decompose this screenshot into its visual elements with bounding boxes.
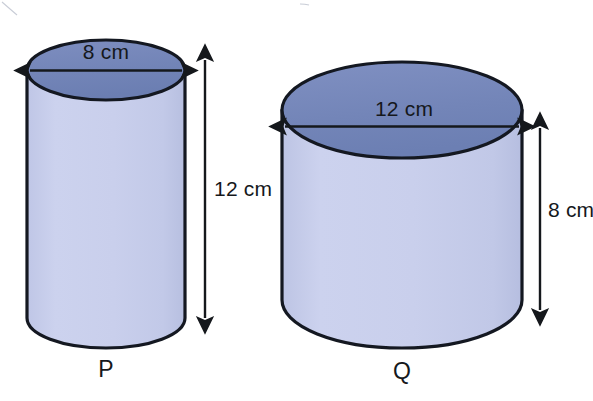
diagram-canvas: 8 cm 12 cm P 12 cm 8 cm Q — [0, 0, 593, 401]
cylinder-p-body — [27, 70, 185, 348]
cylinder-figure: 8 cm 12 cm P 12 cm 8 cm Q — [0, 0, 593, 401]
cylinder-p-height-label: 12 cm — [214, 177, 272, 200]
cylinder-q-name-label: Q — [393, 358, 411, 384]
cylinder-q-height-label: 8 cm — [548, 198, 593, 221]
cylinder-p-diameter-label: 8 cm — [83, 40, 129, 63]
cylinder-q: 12 cm 8 cm Q — [282, 62, 593, 384]
cylinder-p-name-label: P — [98, 356, 113, 382]
scan-artifacts — [2, 2, 309, 15]
cylinder-p: 8 cm 12 cm P — [27, 40, 272, 382]
cylinder-q-diameter-label: 12 cm — [375, 97, 433, 120]
